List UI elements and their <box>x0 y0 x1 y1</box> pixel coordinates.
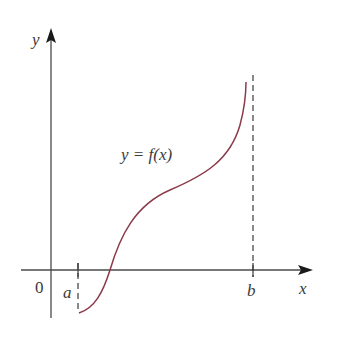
function-curve <box>79 82 246 313</box>
marker-a-label: a <box>63 283 72 302</box>
x-axis-label: x <box>298 279 307 298</box>
function-graph: y x 0 a b y = f(x) <box>0 0 338 345</box>
curve-label: y = f(x) <box>119 145 172 164</box>
origin-label: 0 <box>35 278 44 297</box>
marker-b-label: b <box>247 281 256 300</box>
y-axis-label: y <box>30 30 40 49</box>
